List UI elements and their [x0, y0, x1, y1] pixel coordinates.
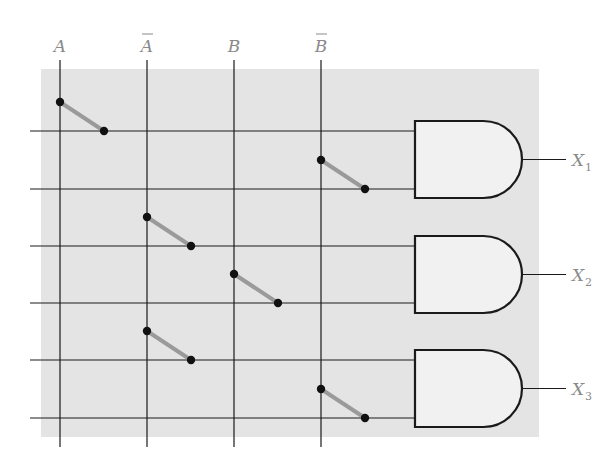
fuse-node-icon: [230, 270, 238, 278]
fuse-node-icon: [361, 185, 369, 193]
and-gate-2: [415, 236, 522, 313]
input-label-b-bar: B: [314, 36, 328, 56]
input-label-a: A: [52, 36, 66, 56]
fuse-node-icon: [187, 242, 195, 250]
fuse-node-icon: [56, 98, 64, 106]
pla-and-array-diagram: AABBX1X2X3: [0, 0, 613, 463]
fuse-node-icon: [274, 299, 282, 307]
and-gate-3: [415, 350, 522, 427]
and-gate-1: [415, 121, 522, 198]
fuse-node-icon: [143, 327, 151, 335]
input-label-b: B: [227, 36, 241, 56]
output-label-x1: X1: [570, 150, 592, 174]
fuse-node-icon: [187, 356, 195, 364]
fuse-node-icon: [361, 414, 369, 422]
fuse-node-icon: [317, 156, 325, 164]
output-label-x2: X2: [570, 265, 592, 289]
fuse-node-icon: [100, 127, 108, 135]
fuse-node-icon: [143, 213, 151, 221]
and-gates: [415, 121, 566, 427]
input-label-a-bar: A: [139, 36, 153, 56]
output-label-x3: X3: [570, 379, 592, 403]
fuse-node-icon: [317, 385, 325, 393]
